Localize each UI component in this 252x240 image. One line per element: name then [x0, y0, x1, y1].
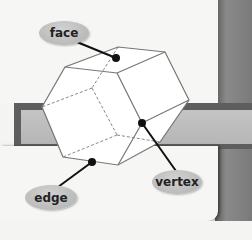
vertex-label: vertex [152, 170, 202, 194]
face-marker-dot [112, 54, 120, 62]
vertex-marker-dot [138, 119, 146, 127]
edge-label: edge [25, 185, 77, 210]
face-label: face [39, 21, 89, 45]
polyhedron-body [42, 47, 189, 165]
edge-marker-dot [88, 158, 96, 166]
